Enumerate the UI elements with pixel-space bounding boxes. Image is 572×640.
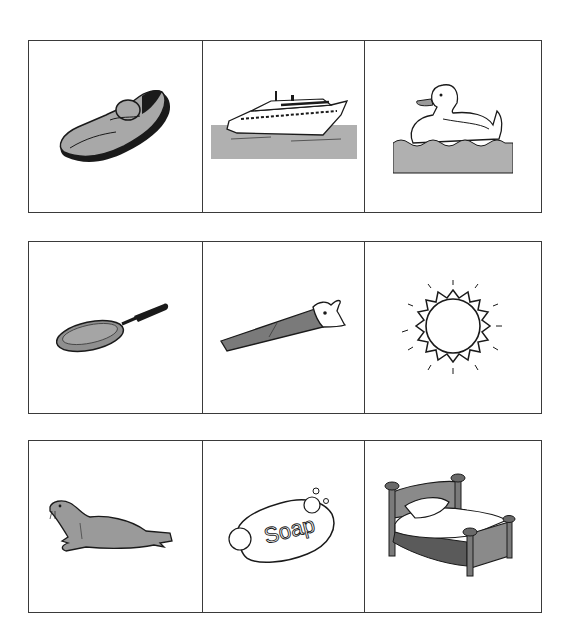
picture-card-sun[interactable]: sun	[364, 242, 541, 413]
seal-picture	[46, 497, 186, 557]
picture-row-3: seal soap Soap bed	[28, 440, 542, 613]
picture-card-shoe[interactable]: shoe	[29, 41, 202, 212]
picture-card-duck[interactable]: duck	[364, 41, 541, 212]
picture-card-pan[interactable]: pan	[29, 242, 202, 413]
duck-picture	[393, 77, 513, 177]
bed-picture	[383, 472, 523, 582]
picture-card-seal[interactable]: seal	[29, 441, 202, 612]
boat-picture	[211, 87, 357, 167]
pan-picture	[56, 298, 176, 358]
soap-picture: Soap	[224, 477, 344, 577]
picture-row-1: shoe boat duck	[28, 40, 542, 213]
saw-picture	[219, 293, 349, 363]
shoe-picture	[46, 72, 186, 182]
picture-card-soap[interactable]: soap Soap	[202, 441, 363, 612]
picture-row-2: pan saw sun	[28, 241, 542, 414]
picture-card-saw[interactable]: saw	[202, 242, 363, 413]
picture-card-bed[interactable]: bed	[364, 441, 541, 612]
sun-picture	[398, 278, 508, 378]
picture-card-boat[interactable]: boat	[202, 41, 363, 212]
